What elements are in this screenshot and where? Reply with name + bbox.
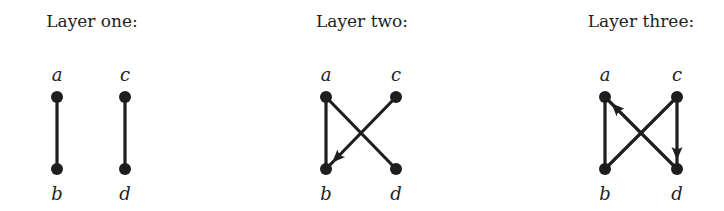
node-label-b: b — [320, 183, 332, 204]
node-label-d: d — [119, 183, 131, 204]
node-label-d: d — [671, 183, 683, 204]
layered-graph-diagram: Layer one: acbd Layer two: acbd Layer th… — [0, 0, 724, 211]
node-c — [390, 91, 402, 103]
node-label-a: a — [600, 64, 611, 85]
node-label-a: a — [321, 64, 332, 85]
node-b — [51, 163, 63, 175]
node-b — [320, 163, 332, 175]
layer-two-title: Layer two: — [316, 11, 408, 31]
node-d — [390, 163, 402, 175]
layer-one-nodes: acbd — [51, 64, 131, 204]
node-d — [671, 163, 683, 175]
node-b — [599, 163, 611, 175]
layer-three-title: Layer three: — [588, 11, 694, 31]
layer-one: Layer one: acbd — [46, 11, 138, 204]
node-label-b: b — [51, 183, 63, 204]
node-label-b: b — [599, 183, 611, 204]
node-c — [119, 91, 131, 103]
layer-two: Layer two: acbd — [316, 11, 408, 204]
layer-three: Layer three: acbd — [588, 11, 694, 204]
node-c — [671, 91, 683, 103]
node-label-c: c — [672, 64, 682, 85]
node-label-c: c — [120, 64, 130, 85]
node-a — [51, 91, 63, 103]
node-a — [599, 91, 611, 103]
node-label-c: c — [391, 64, 401, 85]
node-label-a: a — [52, 64, 63, 85]
node-label-d: d — [390, 183, 402, 204]
layer-one-edges — [57, 97, 125, 169]
node-a — [320, 91, 332, 103]
node-d — [119, 163, 131, 175]
layer-two-edges — [326, 97, 396, 169]
layer-one-title: Layer one: — [46, 11, 138, 31]
layer-three-edges — [605, 97, 683, 169]
